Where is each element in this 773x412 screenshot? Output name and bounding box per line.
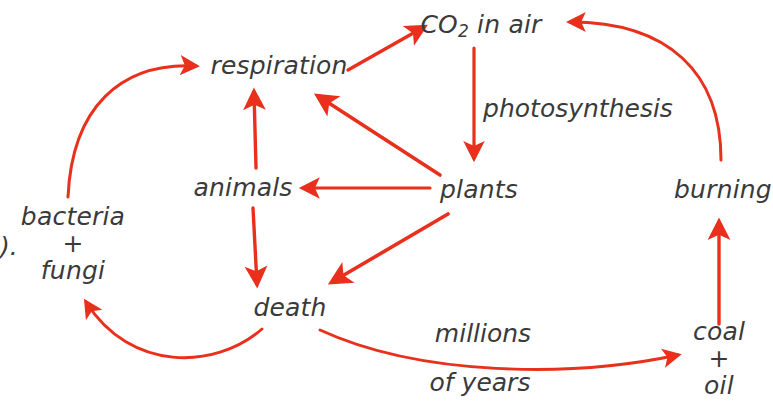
node-animals: animals [193, 174, 292, 202]
edge-label-millions: millions [435, 319, 531, 348]
node-co2-in-air: CO2 in air [420, 11, 541, 42]
node-coal-oil: coal + oil [693, 318, 745, 399]
node-plants: plants [440, 176, 518, 204]
arrow-animals-to-respiration [254, 92, 256, 168]
node-burning: burning [674, 176, 772, 204]
node-bacteria-fungi-line-1: bacteria [21, 203, 125, 230]
node-bacteria-fungi-line-2: + [21, 230, 125, 257]
arrow-death-to-bacteria-fungi [86, 302, 262, 358]
arrow-bacteria-fungi-to-respiration [68, 66, 196, 197]
node-bacteria-fungi: bacteria + fungi [21, 203, 125, 284]
arrow-burning-to-co2 [570, 22, 721, 160]
node-death: death [253, 294, 326, 322]
node-bacteria-fungi-line-3: fungi [21, 257, 125, 284]
node-coal-oil-line-1: coal [693, 318, 745, 345]
node-respiration: respiration [210, 52, 347, 80]
edge-label-photosynthesis: photosynthesis [483, 94, 673, 123]
node-co2-label: CO [420, 10, 458, 39]
edge-label-of-years: of years [430, 368, 531, 397]
carbon-cycle-diagram: ). CO2 in air respiration animals plants… [0, 0, 773, 412]
arrow-plants-to-respiration [318, 96, 440, 175]
node-coal-oil-line-2: + [693, 345, 745, 372]
arrow-plants-to-death [332, 214, 448, 282]
node-co2-label-tail: in air [469, 10, 542, 39]
node-coal-oil-line-3: oil [693, 372, 745, 399]
node-co2-subscript: 2 [458, 21, 469, 41]
arrow-respiration-to-co2 [348, 27, 424, 70]
arrow-animals-to-death [253, 208, 257, 284]
cropped-caption-marker: ). [0, 232, 18, 261]
